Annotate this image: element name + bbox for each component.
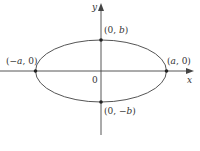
point-top xyxy=(99,38,103,42)
label-right: (a, 0) xyxy=(167,56,191,66)
label-bottom: (0, −b) xyxy=(104,106,136,116)
y-axis-arrow-icon xyxy=(98,3,104,11)
x-axis-arrow-icon xyxy=(186,68,194,74)
label-top: (0, b) xyxy=(104,25,128,35)
point-left xyxy=(34,69,38,73)
x-axis-label: x xyxy=(187,75,192,85)
y-axis-label: y xyxy=(91,2,98,12)
ellipse-diagram: y x 0 (0, b) (0, −b) (−a, 0) (a, 0) xyxy=(0,0,200,151)
label-left: (−a, 0) xyxy=(6,56,37,66)
point-right xyxy=(165,69,169,73)
origin-label: 0 xyxy=(92,75,98,85)
point-bottom xyxy=(99,100,103,104)
